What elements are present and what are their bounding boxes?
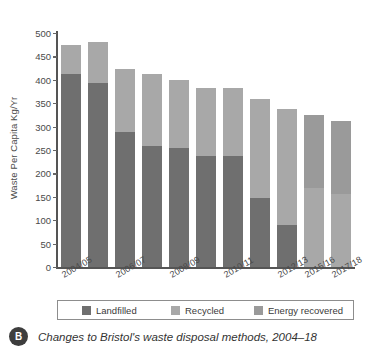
bar-2005-06[interactable] xyxy=(88,42,108,267)
waste-disposal-figure: Waste Per Capita Kg/Yr 05010015020025030… xyxy=(0,0,365,348)
bar-segment-recycled xyxy=(331,194,351,267)
bar-segment-recycled xyxy=(169,80,189,148)
bar-segment-landfilled xyxy=(115,132,135,267)
bar-2012-13[interactable] xyxy=(277,109,297,267)
y-tick-mark xyxy=(53,80,57,81)
bar-2009-10[interactable] xyxy=(196,88,216,267)
caption-badge: B xyxy=(9,327,28,346)
bar-segment-recycled xyxy=(88,42,108,83)
bar-segment-landfilled xyxy=(142,146,162,267)
bar-segment-landfilled xyxy=(169,148,189,267)
legend-item-recycled[interactable]: Recycled xyxy=(171,305,224,316)
bar-segment-recycled xyxy=(223,88,243,156)
plot-area: 050100150200250300350400450500 xyxy=(57,33,355,267)
legend-label: Energy recovered xyxy=(268,305,343,316)
bar-segment-landfilled xyxy=(61,74,81,267)
bar-segment-recycled xyxy=(196,88,216,156)
y-tick-mark xyxy=(53,267,57,268)
bar-segment-energy-recovered xyxy=(304,115,324,188)
y-tick-mark xyxy=(53,197,57,198)
caption-badge-wrap: B xyxy=(4,326,34,348)
y-tick-label: 400 xyxy=(35,74,51,85)
y-tick-label: 50 xyxy=(40,238,51,249)
y-tick-label: 100 xyxy=(35,215,51,226)
legend-label: Recycled xyxy=(185,305,224,316)
bar-segment-recycled xyxy=(61,45,81,74)
legend-item-energy-recovered[interactable]: Energy recovered xyxy=(254,305,343,316)
legend-swatch-icon xyxy=(171,306,180,315)
y-axis-title: Waste Per Capita Kg/Yr xyxy=(8,58,19,238)
legend-label: Landfilled xyxy=(96,305,137,316)
bar-segment-recycled xyxy=(304,188,324,267)
bar-segment-landfilled xyxy=(223,156,243,267)
bar-2010-11[interactable] xyxy=(223,88,243,267)
y-tick-label: 150 xyxy=(35,191,51,202)
bar-segment-recycled xyxy=(277,109,297,225)
y-tick-mark xyxy=(53,103,57,104)
chart-legend: LandfilledRecycledEnergy recovered xyxy=(57,300,354,320)
bar-segment-energy-recovered xyxy=(331,121,351,194)
y-tick-label: 0 xyxy=(46,262,51,273)
y-tick-mark xyxy=(53,220,57,221)
y-tick-mark xyxy=(53,127,57,128)
bar-segment-recycled xyxy=(115,69,135,132)
bar-2015-16[interactable] xyxy=(304,115,324,267)
y-tick-label: 250 xyxy=(35,145,51,156)
legend-swatch-icon xyxy=(254,306,263,315)
y-tick-label: 450 xyxy=(35,51,51,62)
bar-segment-landfilled xyxy=(88,83,108,267)
figure-caption: B Changes to Bristol's waste disposal me… xyxy=(0,326,365,348)
y-tick-mark xyxy=(53,173,57,174)
bar-segment-recycled xyxy=(142,74,162,146)
y-tick-mark xyxy=(53,56,57,57)
bar-2004-05[interactable] xyxy=(61,45,81,267)
bar-2007-08[interactable] xyxy=(142,74,162,267)
bar-2011-12[interactable] xyxy=(250,99,270,267)
y-tick-label: 200 xyxy=(35,168,51,179)
bar-segment-landfilled xyxy=(250,198,270,267)
bar-2006-07[interactable] xyxy=(115,69,135,267)
y-tick-label: 350 xyxy=(35,98,51,109)
caption-text: Changes to Bristol's waste disposal meth… xyxy=(38,331,317,343)
y-tick-mark xyxy=(53,33,57,34)
bar-segment-landfilled xyxy=(196,156,216,267)
bar-segment-recycled xyxy=(250,99,270,199)
bar-2008-09[interactable] xyxy=(169,80,189,267)
legend-item-landfilled[interactable]: Landfilled xyxy=(82,305,137,316)
y-tick-mark xyxy=(53,150,57,151)
legend-swatch-icon xyxy=(82,306,91,315)
y-tick-label: 500 xyxy=(35,28,51,39)
y-tick-label: 300 xyxy=(35,121,51,132)
y-tick-mark xyxy=(53,244,57,245)
bar-2017-18[interactable] xyxy=(331,121,351,267)
